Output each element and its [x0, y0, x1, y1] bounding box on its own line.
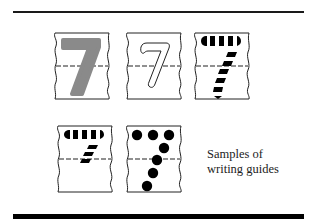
- writing-guide-solid-gray: [52, 32, 112, 100]
- top-rule: [13, 11, 304, 13]
- writing-guide-dashed-full: [192, 32, 252, 100]
- writing-guide-outline: [124, 32, 184, 100]
- caption-line-1: Samples of: [207, 147, 279, 162]
- writing-guide-dashed-partial: [55, 125, 115, 193]
- bottom-rule: [13, 214, 304, 219]
- figure-caption: Samples of writing guides: [207, 147, 279, 177]
- caption-line-2: writing guides: [207, 162, 279, 177]
- writing-guide-dotted: [124, 125, 184, 193]
